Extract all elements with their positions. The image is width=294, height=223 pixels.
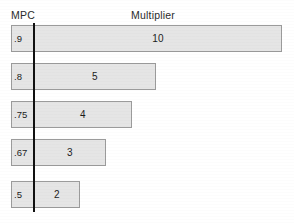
multiplier-value-label: 4	[34, 101, 132, 128]
bar-row: .85	[11, 63, 156, 90]
bar-row: .52	[11, 181, 80, 208]
bar-row: .673	[11, 139, 106, 166]
multiplier-value-label: 5	[34, 63, 156, 90]
chart-canvas: MPC Multiplier .910.85.754.673.52	[0, 0, 294, 223]
bar-row: .754	[11, 101, 132, 128]
mpc-value-label: .8	[11, 63, 34, 90]
multiplier-value-label: 2	[34, 181, 80, 208]
mpc-value-label: .67	[11, 139, 34, 166]
mpc-value-label: .9	[11, 25, 34, 52]
bar-row: .910	[11, 25, 282, 52]
bar-list: .910.85.754.673.52	[0, 0, 294, 223]
multiplier-value-label: 3	[34, 139, 106, 166]
multiplier-value-label: 10	[34, 25, 282, 52]
mpc-value-label: .5	[11, 181, 34, 208]
mpc-value-label: .75	[11, 101, 34, 128]
